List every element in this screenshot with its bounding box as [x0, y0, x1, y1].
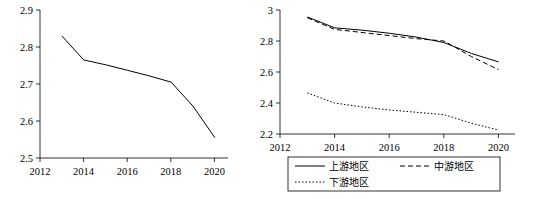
- chart-right-svg: 2.2 2.4 2.6 2.8 3 2012 2014 2016 2018 20…: [250, 0, 534, 199]
- chart-right: 2.2 2.4 2.6 2.8 3 2012 2014 2016 2018 20…: [250, 0, 534, 199]
- legend: 上游地区 中游地区 下游地区: [288, 157, 500, 191]
- x-tick-label: 2016: [379, 142, 400, 153]
- y-tick-label: 2.8: [260, 36, 273, 47]
- x-tick-label: 2012: [30, 166, 51, 177]
- x-tick-label: 2012: [270, 142, 291, 153]
- y-tick-label: 2.9: [20, 5, 33, 16]
- x-ticks-right: 2012 2014 2016 2018 2020: [270, 134, 509, 153]
- x-tick-label: 2016: [117, 166, 138, 177]
- data-line-midstream: [307, 18, 498, 70]
- y-tick-label: 2.5: [20, 153, 33, 164]
- y-tick-label: 2.2: [260, 129, 273, 140]
- chart-left-svg: 2.5 2.6 2.7 2.8 2.9 2012 2014 2016 2018 …: [0, 0, 238, 199]
- figure-container: 2.5 2.6 2.7 2.8 2.9 2012 2014 2016 2018 …: [0, 0, 534, 199]
- data-line-downstream: [307, 93, 498, 130]
- x-tick-label: 2018: [160, 166, 181, 177]
- y-tick-label: 2.6: [260, 67, 273, 78]
- x-tick-label: 2014: [324, 142, 346, 153]
- y-tick-label: 2.6: [20, 116, 33, 127]
- chart-left: 2.5 2.6 2.7 2.8 2.9 2012 2014 2016 2018 …: [0, 0, 238, 199]
- x-tick-label: 2020: [488, 142, 509, 153]
- y-tick-label: 2.8: [20, 42, 33, 53]
- data-line-left: [62, 36, 215, 138]
- y-ticks-left: 2.5 2.6 2.7 2.8 2.9: [20, 5, 40, 164]
- legend-label-midstream: 中游地区: [434, 160, 474, 172]
- x-tick-label: 2018: [433, 142, 454, 153]
- y-tick-label: 2.4: [260, 98, 274, 109]
- y-ticks-right: 2.2 2.4 2.6 2.8 3: [260, 5, 280, 140]
- x-tick-label: 2014: [73, 166, 95, 177]
- legend-label-upstream: 上游地区: [329, 160, 369, 172]
- x-tick-label: 2020: [204, 166, 225, 177]
- y-tick-label: 2.7: [20, 79, 33, 90]
- x-ticks-left: 2012 2014 2016 2018 2020: [30, 158, 225, 177]
- legend-label-downstream: 下游地区: [329, 176, 369, 188]
- y-tick-label: 3: [268, 5, 273, 16]
